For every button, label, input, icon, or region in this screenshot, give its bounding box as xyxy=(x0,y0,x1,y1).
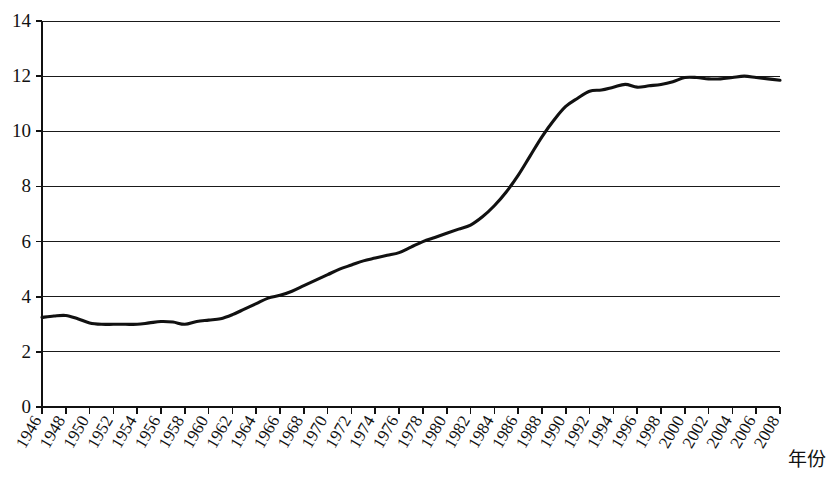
y-tick-label: 8 xyxy=(22,175,32,196)
y-tick-label: 6 xyxy=(22,231,32,252)
x-axis-title: 年份 xyxy=(788,449,826,470)
y-tick-label: 2 xyxy=(22,341,32,362)
y-tick-label: 4 xyxy=(22,286,32,307)
y-tick-label: 14 xyxy=(12,10,32,31)
x-tick-label: 2008 xyxy=(750,413,783,452)
y-tick-label: 10 xyxy=(12,120,31,141)
y-tick-label: 12 xyxy=(12,65,31,86)
series-line-1 xyxy=(42,76,780,324)
chart-container: 02468101214 1946194819501952195419561958… xyxy=(0,0,833,478)
gridlines xyxy=(42,21,780,407)
x-axis-tick-labels: 1946194819501952195419561958196019621964… xyxy=(12,412,783,451)
data-series xyxy=(42,76,780,324)
axes xyxy=(36,21,780,407)
y-axis-tick-labels: 02468101214 xyxy=(12,10,32,417)
line-chart: 02468101214 1946194819501952195419561958… xyxy=(0,0,833,478)
